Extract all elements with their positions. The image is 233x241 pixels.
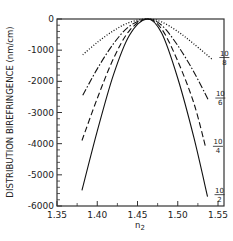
x-tick-label: 1.45 [127, 210, 147, 220]
series-label-10-4: 104 [213, 138, 223, 155]
y-tick-label: -4000 [28, 139, 54, 149]
fraction-numerator: 10 [216, 90, 225, 98]
x-tick-label: 1.55 [208, 210, 228, 220]
fraction-denominator: 6 [218, 99, 223, 107]
fraction-numerator: 10 [215, 187, 224, 195]
y-axis-title: DISTRIBUTION BIREFRINGENCE (nm/cm) [5, 26, 15, 197]
x-tick-label: 1.50 [168, 210, 188, 220]
x-axis-title: n2 [135, 220, 145, 232]
fraction-denominator: 8 [222, 59, 226, 67]
y-tick-label: -5000 [28, 170, 54, 180]
fraction-denominator: 4 [216, 147, 221, 155]
fraction-numerator: 10 [220, 50, 229, 58]
y-tick-label: -3000 [28, 108, 54, 118]
y-tick-label: -1000 [28, 45, 54, 55]
birefringence-chart: 0-1000-2000-3000-4000-5000-60001.351.401… [0, 0, 233, 241]
x-axis-title-subscript: 2 [140, 224, 144, 232]
fraction-numerator: 10 [213, 138, 222, 146]
series-label-10-2: 102 [215, 187, 225, 204]
y-tick-label: -2000 [28, 76, 54, 86]
y-tick-label: 0 [48, 14, 54, 24]
series-line-10-8 [83, 19, 213, 60]
x-tick-label: 1.35 [47, 210, 67, 220]
x-tick-label: 1.40 [87, 210, 107, 220]
fraction-denominator: 2 [217, 196, 221, 204]
plot-frame [57, 19, 224, 206]
series-line-10-2 [82, 19, 208, 197]
series-label-10-8: 108 [219, 50, 229, 67]
